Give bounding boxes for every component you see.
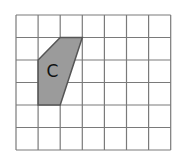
shape-c-quadrilateral bbox=[38, 38, 82, 106]
shape-label: C bbox=[47, 61, 59, 81]
grid-diagram: C bbox=[0, 0, 182, 155]
